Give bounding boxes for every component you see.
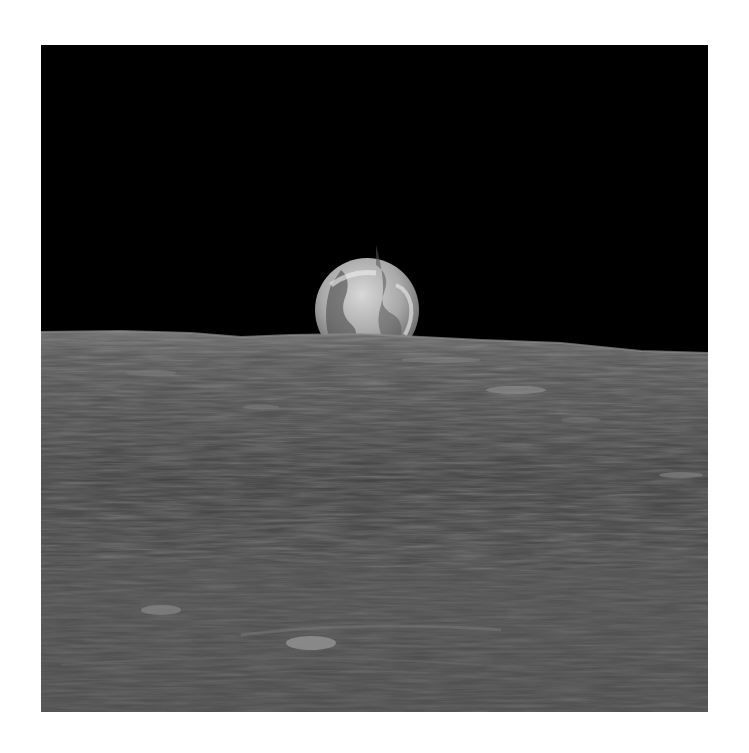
earthrise-photo: [41, 45, 708, 712]
lunar-surface: [41, 325, 708, 712]
lunar-scene: [41, 45, 708, 712]
